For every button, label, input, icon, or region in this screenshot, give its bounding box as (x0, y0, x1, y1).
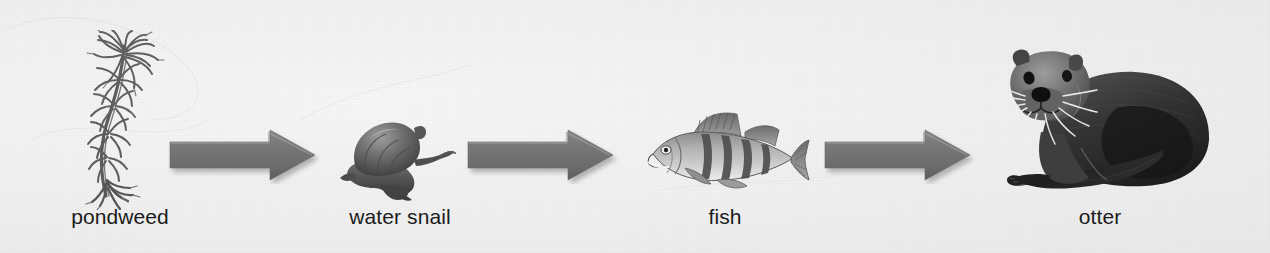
fish-illustration (645, 102, 810, 197)
label-pondweed: pondweed (10, 206, 230, 227)
pondweed-illustration (70, 30, 170, 210)
otter-illustration (985, 28, 1215, 203)
food-chain-diagram: pondweed (0, 0, 1270, 253)
arrow-water-snail-to-fish (466, 128, 618, 184)
label-fish: fish (660, 206, 790, 227)
arrow-fish-to-otter (823, 128, 975, 184)
label-otter: otter (1020, 206, 1180, 227)
label-water-snail: water snail (290, 206, 510, 227)
arrow-pondweed-to-water-snail (168, 128, 320, 184)
water-snail-illustration (336, 108, 456, 203)
